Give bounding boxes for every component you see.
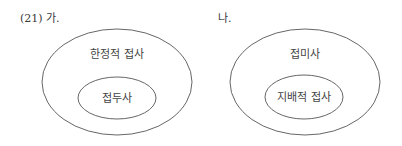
outer-label-a: 한정적 접사 (90, 48, 144, 61)
inner-label-b: 지배적 접사 (277, 91, 331, 104)
venn-diagrams: 한정적 접사 접두사 접미사 지배적 접사 (0, 0, 402, 146)
inner-label-a: 접두사 (102, 92, 132, 105)
outer-label-b: 접미사 (290, 48, 320, 61)
diagram-a: 한정적 접사 접두사 (42, 29, 192, 135)
diagram-b: 접미사 지배적 접사 (230, 29, 380, 135)
